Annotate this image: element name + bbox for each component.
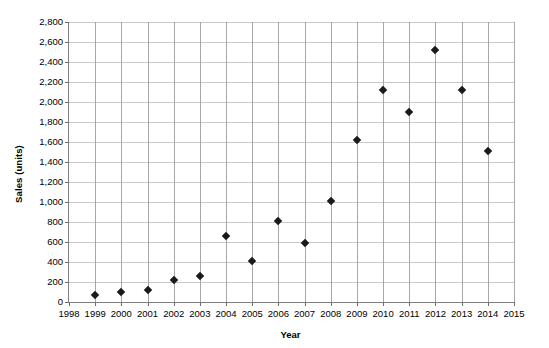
y-tick-label: 600 [17,237,63,247]
gridline-vertical [435,22,436,302]
y-tick [65,142,69,143]
gridline-vertical [331,22,332,302]
data-point [457,86,465,94]
gridline-horizontal [69,202,514,203]
data-point [484,147,492,155]
x-tick-label: 2015 [494,308,534,319]
gridline-horizontal [69,142,514,143]
x-tick [514,302,515,306]
data-point [91,291,99,299]
data-point [431,46,439,54]
data-point [274,217,282,225]
x-tick [252,302,253,306]
gridline-vertical [278,22,279,302]
x-tick [383,302,384,306]
y-axis-title: Sales (units) [8,0,28,348]
gridline-horizontal [69,102,514,103]
data-point [222,232,230,240]
x-tick [305,302,306,306]
x-tick [331,302,332,306]
y-tick-label: 2,200 [17,77,63,87]
y-tick [65,82,69,83]
plot-area: 02004006008001,0001,2001,4001,6001,8002,… [68,22,514,303]
y-tick [65,62,69,63]
gridline-horizontal [69,222,514,223]
gridline-horizontal [69,22,514,23]
y-tick [65,202,69,203]
y-tick [65,282,69,283]
data-point [379,86,387,94]
y-tick-label: 2,000 [17,97,63,107]
data-point [117,288,125,296]
y-tick [65,162,69,163]
y-tick [65,122,69,123]
gridline-horizontal [69,62,514,63]
x-tick [69,302,70,306]
x-tick [121,302,122,306]
data-point [300,238,308,246]
y-tick [65,242,69,243]
gridline-vertical [121,22,122,302]
y-tick [65,182,69,183]
y-tick [65,42,69,43]
y-tick-label: 1,000 [17,197,63,207]
gridline-horizontal [69,122,514,123]
gridline-horizontal [69,242,514,243]
x-tick [226,302,227,306]
y-tick-label: 2,400 [17,57,63,67]
x-tick [95,302,96,306]
x-axis-title: Year [68,329,513,340]
gridline-vertical [383,22,384,302]
x-tick [409,302,410,306]
y-tick-label: 1,200 [17,177,63,187]
gridline-vertical [488,22,489,302]
gridline-vertical [357,22,358,302]
gridline-vertical [174,22,175,302]
data-point [143,286,151,294]
gridline-horizontal [69,262,514,263]
y-tick [65,222,69,223]
x-tick [200,302,201,306]
y-tick [65,262,69,263]
x-tick [278,302,279,306]
gridline-horizontal [69,162,514,163]
scatter-chart-figure: Sales (units) 02004006008001,0001,2001,4… [0,0,549,348]
gridline-vertical [409,22,410,302]
data-point [248,256,256,264]
y-tick-label: 1,600 [17,137,63,147]
y-tick [65,22,69,23]
y-tick-label: 200 [17,277,63,287]
x-tick [357,302,358,306]
gridline-vertical [200,22,201,302]
y-tick-label: 400 [17,257,63,267]
data-point [196,272,204,280]
y-tick [65,102,69,103]
data-point [405,108,413,116]
x-tick [462,302,463,306]
gridline-vertical [95,22,96,302]
gridline-vertical [462,22,463,302]
gridline-horizontal [69,42,514,43]
gridline-vertical [305,22,306,302]
gridline-horizontal [69,282,514,283]
x-tick [148,302,149,306]
gridline-horizontal [69,182,514,183]
y-tick-label: 2,800 [17,17,63,27]
y-tick-label: 2,600 [17,37,63,47]
x-tick [174,302,175,306]
y-tick-label: 1,800 [17,117,63,127]
gridline-horizontal [69,82,514,83]
y-tick-label: 800 [17,217,63,227]
y-tick-label: 1,400 [17,157,63,167]
gridline-vertical [514,22,515,302]
y-tick-label: 0 [17,297,63,307]
data-point [327,197,335,205]
x-tick [488,302,489,306]
x-tick [435,302,436,306]
gridline-vertical [148,22,149,302]
gridline-vertical [226,22,227,302]
